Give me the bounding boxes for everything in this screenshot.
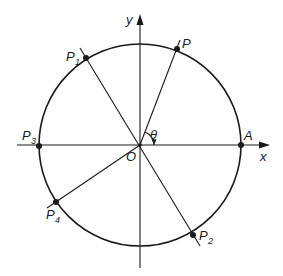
- origin-label: O: [126, 149, 136, 164]
- x-axis-arrow-icon: [259, 142, 270, 149]
- unit-circle-diagram: y x O θ A P P 1 P 3 P 4 P 2: [0, 0, 283, 276]
- ray-OP: [140, 40, 180, 145]
- label-P4: P: [46, 207, 55, 222]
- point-P3: [36, 143, 42, 149]
- label-P1: P: [66, 49, 75, 64]
- label-P3: P: [22, 128, 31, 143]
- y-axis-label: y: [125, 12, 134, 27]
- point-P1: [83, 55, 89, 61]
- y-axis-arrow-icon: [137, 14, 144, 25]
- point-P4: [53, 199, 59, 205]
- theta-label: θ: [150, 127, 157, 142]
- origin-point: [138, 143, 142, 147]
- point-P2: [190, 232, 196, 238]
- label-P: P: [182, 36, 191, 51]
- label-P2-sub: 2: [207, 236, 213, 246]
- x-axis-label: x: [259, 149, 267, 164]
- label-P4-sub: 4: [55, 215, 60, 225]
- point-P: [174, 46, 180, 52]
- label-P1-sub: 1: [75, 57, 80, 67]
- label-P3-sub: 3: [31, 136, 36, 146]
- label-P2: P: [199, 228, 208, 243]
- label-A: A: [243, 128, 253, 143]
